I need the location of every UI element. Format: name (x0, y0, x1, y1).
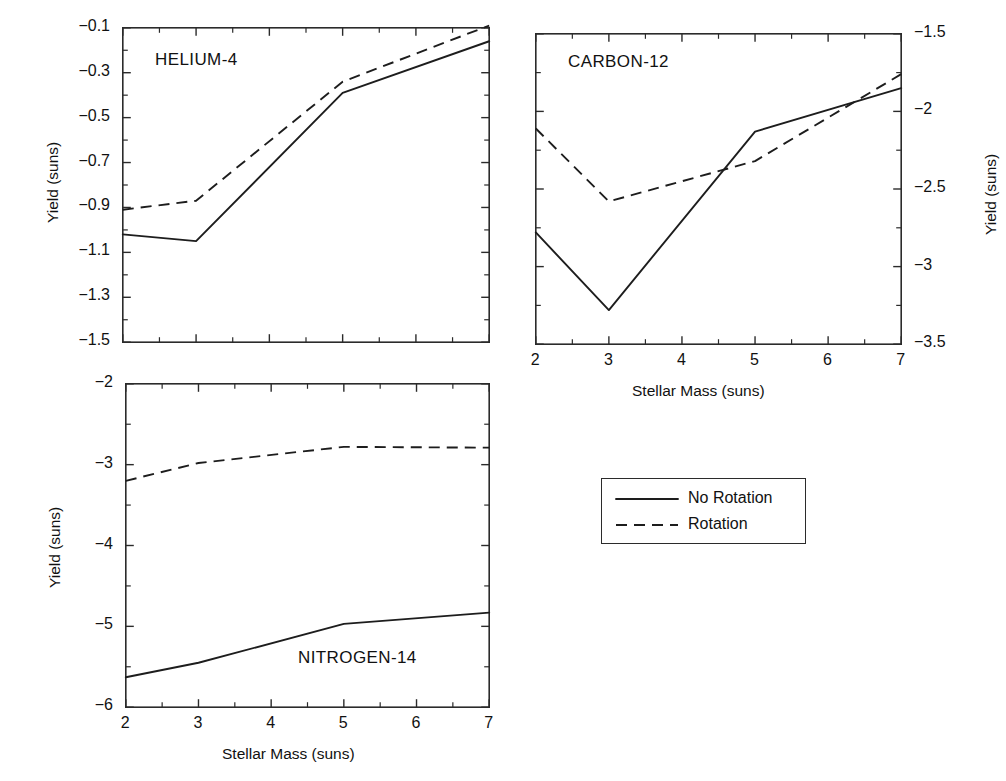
y-tick-label: −3 (0, 454, 113, 472)
legend-label-no-rotation: No Rotation (688, 489, 773, 507)
y-tick-label: −0.3 (0, 62, 110, 80)
y-tick-label: −6 (0, 696, 113, 714)
plot-area-carbon-12 (535, 33, 902, 345)
panel-title-nitrogen-14: NITROGEN-14 (298, 648, 417, 668)
y-tick-label: −0.1 (0, 17, 110, 35)
x-tick-label: 4 (266, 714, 275, 732)
x-tick-label: 3 (604, 351, 613, 369)
y-tick-label: −1.5 (914, 23, 946, 41)
y-tick-label: −1.3 (0, 286, 110, 304)
y-tick-label: −4 (0, 535, 113, 553)
y-tick-label: −0.9 (0, 196, 110, 214)
x-axis-title-nitrogen-14: Stellar Mass (suns) (222, 745, 355, 763)
series-line-dashed (126, 447, 489, 481)
panel-helium-4 (122, 27, 490, 343)
figure-canvas: HELIUM-4 Yield (suns) −0.1−0.3−0.5−0.7−0… (0, 0, 1006, 781)
legend: No Rotation Rotation (601, 478, 806, 544)
y-tick-label: −0.7 (0, 152, 110, 170)
y-tick-label: −5 (0, 615, 113, 633)
plot-frame (123, 28, 489, 342)
y-tick-label: −1.5 (0, 331, 110, 349)
x-tick-label: 7 (896, 351, 905, 369)
x-tick-label: 5 (750, 351, 759, 369)
y-tick-label: −0.5 (0, 107, 110, 125)
y-tick-label: −2 (914, 100, 932, 118)
legend-label-rotation: Rotation (688, 515, 748, 533)
x-tick-label: 6 (412, 714, 421, 732)
x-tick-label: 2 (531, 351, 540, 369)
x-tick-label: 4 (677, 351, 686, 369)
y-tick-label: −2.5 (914, 178, 946, 196)
x-tick-label: 3 (193, 714, 202, 732)
y-axis-title-carbon-12: Yield (suns) (982, 154, 1000, 235)
x-tick-label: 6 (823, 351, 832, 369)
y-tick-label: −3 (914, 256, 932, 274)
plot-area-helium-4 (122, 27, 490, 343)
x-tick-label: 7 (484, 714, 493, 732)
series-line-solid (536, 88, 901, 310)
x-axis-title-carbon-12: Stellar Mass (suns) (632, 382, 765, 400)
panel-title-helium-4: HELIUM-4 (155, 50, 238, 70)
y-tick-label: −2 (0, 373, 113, 391)
plot-frame (536, 34, 901, 344)
series-line-dashed (536, 74, 901, 201)
x-tick-label: 2 (121, 714, 130, 732)
panel-title-carbon-12: CARBON-12 (568, 52, 669, 72)
series-line-solid (123, 41, 489, 241)
panel-carbon-12 (535, 33, 902, 345)
y-tick-label: −3.5 (914, 333, 946, 351)
x-tick-label: 5 (339, 714, 348, 732)
y-tick-label: −1.1 (0, 241, 110, 259)
